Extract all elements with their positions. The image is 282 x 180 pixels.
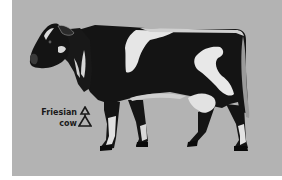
large-triangle: [79, 116, 91, 126]
cow-hoof-front-far: [136, 142, 148, 147]
cow-hoof-front-near: [100, 145, 112, 151]
cow-leg-front-far: [128, 100, 148, 147]
cow-hoof-back-near: [234, 146, 248, 151]
breed-label-line2: cow: [35, 118, 77, 129]
cow-eye: [49, 41, 52, 44]
breed-label-line1: Friesian: [35, 107, 77, 118]
cow-udder: [188, 94, 216, 113]
small-triangle: [81, 107, 89, 114]
breed-label: Friesian cow: [35, 107, 77, 129]
cow-body: [76, 25, 248, 113]
cow-illustration: [0, 0, 282, 180]
stacked-triangles-icon: [78, 106, 92, 128]
